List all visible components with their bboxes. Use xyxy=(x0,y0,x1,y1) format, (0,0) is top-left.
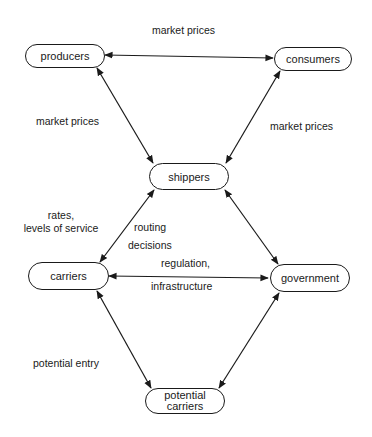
node-consumers: consumers xyxy=(274,47,352,71)
label-levels-of-service: levels of service xyxy=(19,222,103,235)
node-government: government xyxy=(270,264,350,292)
label-routing: routing xyxy=(128,218,172,236)
node-producers-label: producers xyxy=(41,50,90,62)
label-potential-entry: potential entry xyxy=(33,357,99,370)
edge-producers-shippers xyxy=(97,68,153,163)
edge-carriers-government xyxy=(109,276,268,278)
node-government-label: government xyxy=(281,272,339,284)
node-potential-carriers-line2: carriers xyxy=(167,401,204,412)
label-producers-consumers: market prices xyxy=(152,24,215,37)
node-producers: producers xyxy=(25,44,105,68)
edge-consumers-shippers xyxy=(226,71,280,163)
edge-producers-consumers xyxy=(105,55,273,58)
edge-shippers-government xyxy=(225,190,278,264)
edge-government-potential xyxy=(219,293,279,388)
label-rates-service: rates, levels of service xyxy=(19,209,103,235)
node-consumers-label: consumers xyxy=(286,53,340,65)
label-consumers-shippers: market prices xyxy=(270,120,333,133)
label-producers-shippers: market prices xyxy=(36,115,99,128)
node-carriers-label: carriers xyxy=(50,270,87,282)
node-shippers: shippers xyxy=(149,163,229,190)
label-regulation: regulation, xyxy=(161,257,210,270)
node-potential-carriers: potential carriers xyxy=(145,388,225,414)
label-routing-decisions: routing decisions xyxy=(128,218,172,254)
label-decisions: decisions xyxy=(128,236,172,254)
node-carriers: carriers xyxy=(28,262,109,290)
label-rates: rates, xyxy=(19,209,103,222)
node-shippers-label: shippers xyxy=(168,171,210,183)
label-infrastructure: infrastructure xyxy=(151,280,212,293)
edge-carriers-potential xyxy=(97,291,151,388)
